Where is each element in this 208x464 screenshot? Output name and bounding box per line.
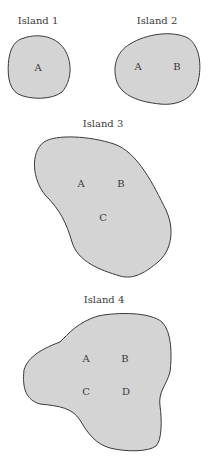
- island-3-shape: [34, 137, 171, 277]
- island-4-site-d: D: [122, 386, 130, 397]
- island-3: Island 3 A B C: [34, 118, 171, 277]
- island-3-site-b: B: [117, 178, 124, 189]
- island-4-site-b: B: [121, 353, 128, 364]
- island-2-site-b: B: [173, 61, 180, 72]
- island-4-site-a: A: [81, 353, 90, 364]
- island-1: Island 1 A: [8, 15, 70, 98]
- islands-diagram: Island 1 A Island 2 A B Island 3 A B C I…: [0, 0, 208, 464]
- island-4-site-c: C: [82, 386, 90, 397]
- island-2-site-a: A: [133, 61, 142, 72]
- island-4-title: Island 4: [84, 294, 125, 305]
- island-4-shape: [24, 314, 172, 451]
- island-3-site-a: A: [76, 178, 85, 189]
- island-1-title: Island 1: [18, 15, 59, 26]
- island-1-site-a: A: [33, 62, 42, 73]
- island-3-title: Island 3: [83, 118, 124, 129]
- island-4: Island 4 A B C D: [24, 294, 172, 451]
- island-2-shape: [115, 34, 200, 105]
- island-2: Island 2 A B: [115, 15, 200, 104]
- island-3-site-c: C: [99, 212, 107, 223]
- island-2-title: Island 2: [137, 15, 178, 26]
